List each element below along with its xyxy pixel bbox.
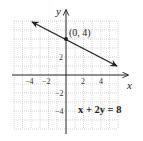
x-tick-labels: −4 −2 2 4 [25,77,103,86]
y-axis-label: y [55,5,61,17]
x-tick: −4 [25,77,34,86]
x-tick: 4 [99,77,103,86]
x-tick: −2 [42,77,51,86]
point-label: (0, 4) [69,27,91,39]
intercept-point [64,37,68,41]
y-tick: −2 [55,89,64,98]
y-tick: −4 [55,107,64,116]
y-tick: 2 [59,53,63,62]
x-tick: 2 [81,77,85,86]
x-axis-label: x [126,79,132,91]
coordinate-plane: x y −4 −2 2 4 2 −2 −4 (0, 4) x + 2y = 8 [0,0,143,141]
equation-label: x + 2y = 8 [78,104,121,115]
y-tick-labels: 2 −2 −4 [55,53,64,116]
